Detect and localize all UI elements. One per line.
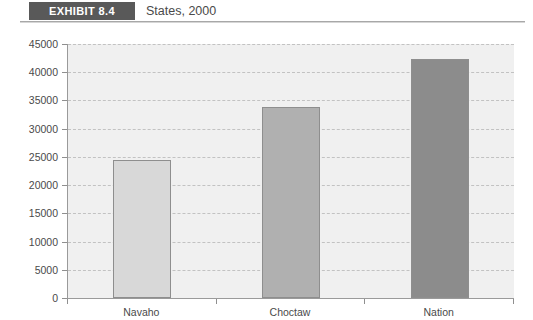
y-axis-tick-label: 25000 [4, 151, 58, 163]
bar-chart: 0500010000150002000025000300003500040000… [0, 30, 533, 320]
x-axis-origin-tick [67, 299, 68, 304]
exhibit-badge: EXHIBIT 8.4 [29, 2, 135, 20]
y-axis-tick-label: 35000 [4, 94, 58, 106]
x-axis-tick-mark [216, 299, 217, 304]
exhibit-title: States, 2000 [146, 2, 216, 20]
x-axis-tick-label: Nation [423, 306, 453, 318]
y-axis-tick-label: 5000 [4, 264, 58, 276]
y-axis-tick-label: 0 [4, 292, 58, 304]
y-axis-tick-label: 45000 [4, 38, 58, 50]
header-divider-shadow [20, 22, 525, 23]
y-axis-labels: 0500010000150002000025000300003500040000… [0, 30, 58, 320]
y-axis-tick-label: 20000 [4, 179, 58, 191]
plot-area [67, 44, 514, 299]
y-axis-tick-label: 10000 [4, 236, 58, 248]
bar-choctaw [262, 107, 320, 298]
x-axis-tick-label: Navaho [123, 306, 159, 318]
x-axis-tick-mark [364, 299, 365, 304]
gridline [68, 44, 514, 45]
y-axis-tick-label: 40000 [4, 66, 58, 78]
y-axis-tick-label: 30000 [4, 123, 58, 135]
exhibit-header: EXHIBIT 8.4 States, 2000 [0, 0, 533, 26]
x-axis-tick-mark [513, 299, 514, 304]
y-axis-tick-label: 15000 [4, 207, 58, 219]
bar-navaho [113, 160, 171, 298]
bar-nation [411, 59, 469, 298]
x-axis-tick-label: Choctaw [270, 306, 311, 318]
